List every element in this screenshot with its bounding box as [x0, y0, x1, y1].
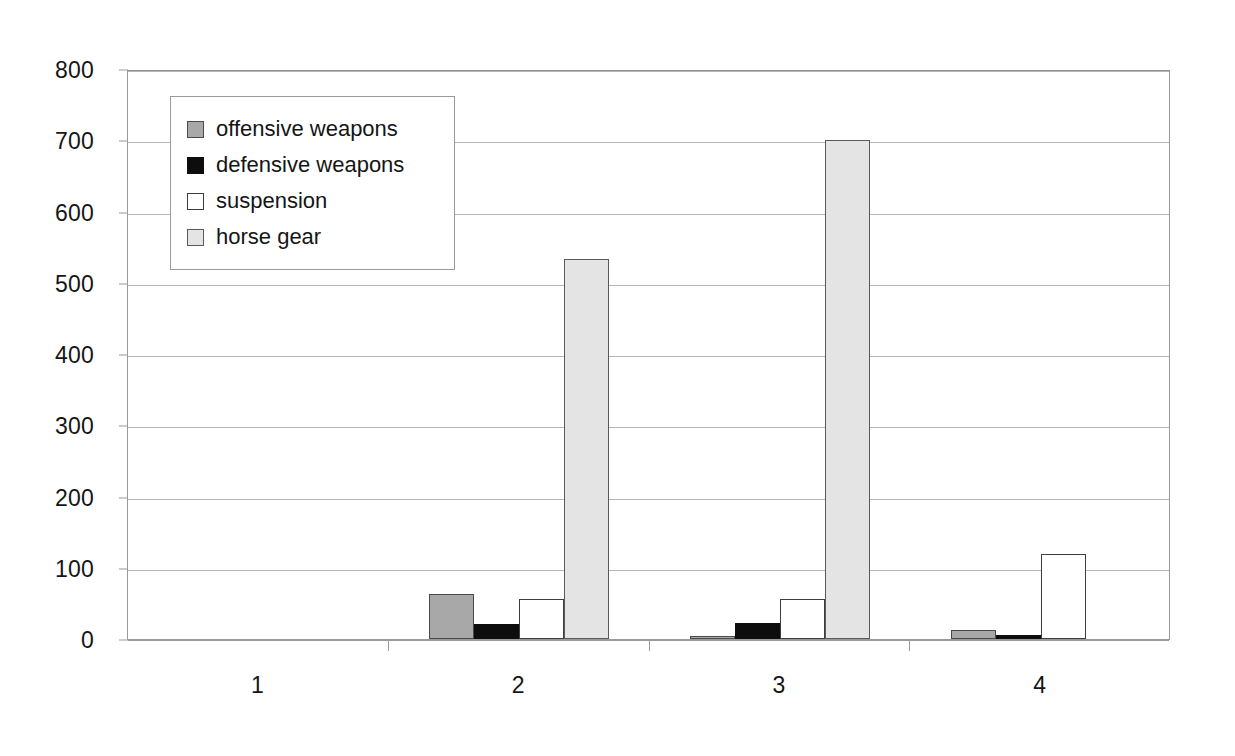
- y-tick-label: 200: [55, 486, 94, 509]
- legend-label: horse gear: [216, 226, 321, 248]
- legend-label: suspension: [216, 190, 327, 212]
- bar: [564, 259, 609, 639]
- chart-legend: offensive weaponsdefensive weaponssuspen…: [170, 96, 455, 270]
- legend-swatch-icon: [187, 229, 204, 246]
- y-tick-label: 500: [55, 272, 94, 295]
- x-tick-label: 1: [251, 674, 264, 697]
- y-tick-label: 600: [55, 201, 94, 224]
- legend-item: suspension: [187, 183, 438, 219]
- bar: [780, 599, 825, 639]
- bar: [690, 636, 735, 639]
- bar: [519, 599, 564, 639]
- x-axis: 1234: [127, 640, 1170, 710]
- y-tick-label: 100: [55, 557, 94, 580]
- legend-swatch-icon: [187, 157, 204, 174]
- legend-swatch-icon: [187, 121, 204, 138]
- bar: [474, 624, 519, 639]
- y-tick-label: 800: [55, 59, 94, 82]
- bar-chart: 0100200300400500600700800 1234 offensive…: [0, 0, 1235, 756]
- y-tick-label: 700: [55, 130, 94, 153]
- legend-item: offensive weapons: [187, 111, 438, 147]
- legend-label: defensive weapons: [216, 154, 404, 176]
- bar: [951, 630, 996, 639]
- x-tick-mark: [649, 640, 650, 651]
- x-tick-mark: [909, 640, 910, 651]
- x-tick-label: 3: [772, 674, 785, 697]
- legend-swatch-icon: [187, 193, 204, 210]
- y-tick-label: 0: [81, 629, 94, 652]
- x-tick-label: 2: [512, 674, 525, 697]
- bar: [996, 635, 1041, 639]
- bar: [429, 594, 474, 639]
- x-tick-mark: [388, 640, 389, 651]
- bar: [825, 140, 870, 639]
- y-tick-label: 300: [55, 415, 94, 438]
- legend-label: offensive weapons: [216, 118, 398, 140]
- y-tick-label: 400: [55, 344, 94, 367]
- legend-item: horse gear: [187, 219, 438, 255]
- bar: [735, 623, 780, 639]
- x-tick-label: 4: [1033, 674, 1046, 697]
- legend-item: defensive weapons: [187, 147, 438, 183]
- bar: [1041, 554, 1086, 640]
- y-axis: 0100200300400500600700800: [0, 70, 112, 640]
